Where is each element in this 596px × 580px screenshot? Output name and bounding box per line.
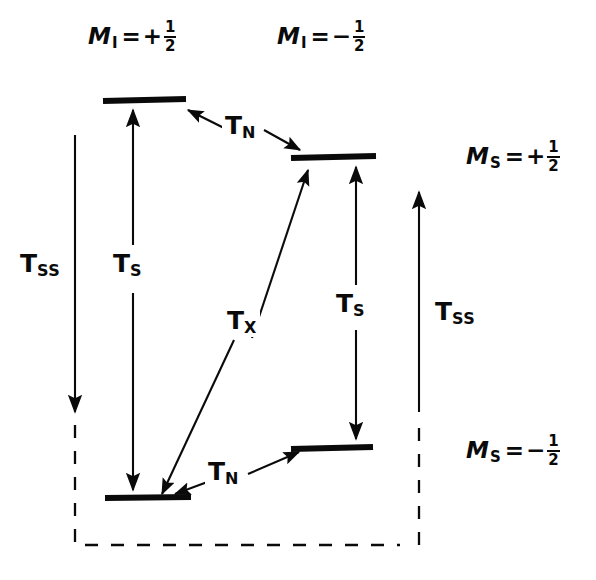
transition-label-ts-left: TS	[110, 250, 145, 280]
tn-lower-subscript: N	[225, 469, 239, 488]
ms-fraction-lower: 12	[547, 434, 559, 469]
transition-label-tss-left: TSS	[17, 250, 63, 280]
tn-lower-symbol: T	[208, 457, 225, 486]
ms-numerator-upper: 1	[547, 140, 559, 158]
mi-equals-right: =	[306, 23, 331, 49]
ms-sign-lower: −	[526, 437, 545, 463]
ms-equals-lower: =	[501, 437, 526, 463]
tn-upper-symbol: T	[225, 111, 242, 140]
mi-numerator-left: 1	[164, 20, 176, 38]
mi-equals-left: =	[117, 23, 142, 49]
mi-fraction-left: 12	[164, 20, 176, 55]
ts-left-subscript: S	[130, 261, 142, 280]
ms-symbol-upper: M	[466, 143, 489, 169]
mi-numerator-right: 1	[353, 20, 365, 38]
ms-denominator-upper: 2	[547, 158, 559, 174]
ts-left-symbol: T	[113, 249, 130, 278]
level-lower-right	[291, 447, 373, 449]
ms-denominator-lower: 2	[547, 452, 559, 468]
tn-upper-subscript: N	[242, 123, 256, 142]
level-upper-left	[103, 99, 186, 101]
diagram-canvas	[0, 0, 596, 580]
ms-fraction-upper: 12	[547, 140, 559, 175]
mi-symbol-right: M	[277, 23, 300, 49]
row-label-ms-minus-half: MS=−12	[466, 434, 560, 469]
mi-symbol-left: M	[88, 23, 111, 49]
mi-fraction-right: 12	[353, 20, 365, 55]
transition-label-tx: TX	[224, 307, 260, 337]
mi-sign-left: +	[143, 23, 162, 49]
tss-right-subscript: SS	[452, 309, 475, 328]
column-label-mi-plus-half: MI=+12	[88, 20, 176, 55]
mi-denominator-right: 2	[353, 38, 365, 54]
tx-subscript: X	[244, 318, 257, 337]
transition-label-tn-lower: TN	[205, 458, 242, 488]
ts-right-symbol: T	[336, 289, 353, 318]
level-upper-right	[291, 156, 376, 158]
mi-sign-right: −	[332, 23, 351, 49]
tss-left-subscript: SS	[37, 261, 60, 280]
transition-label-tn-upper: TN	[222, 112, 259, 142]
tss-right-symbol: T	[435, 297, 452, 326]
ms-sign-upper: +	[526, 143, 545, 169]
column-label-mi-minus-half: MI=−12	[277, 20, 365, 55]
ms-subscript-upper: S	[489, 154, 501, 172]
energy-level-diagram: MI=+12 MI=−12 MS=+12 MS=−12 TSS TS TN TX…	[0, 0, 596, 580]
tx-symbol: T	[227, 306, 244, 335]
ts-right-subscript: S	[353, 301, 365, 320]
ms-equals-upper: =	[501, 143, 526, 169]
row-label-ms-plus-half: MS=+12	[466, 140, 560, 175]
mi-denominator-left: 2	[164, 38, 176, 54]
ms-subscript-lower: S	[489, 448, 501, 466]
ms-numerator-lower: 1	[547, 434, 559, 452]
tss-left-symbol: T	[20, 249, 37, 278]
level-lower-left	[105, 497, 191, 498]
ms-symbol-lower: M	[466, 437, 489, 463]
transition-label-ts-right: TS	[333, 290, 368, 320]
transition-label-tss-right: TSS	[432, 298, 478, 328]
